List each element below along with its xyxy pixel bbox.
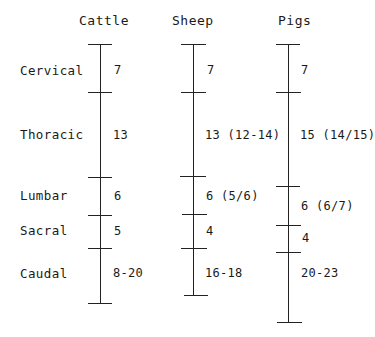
cattle-cervical-count: 7 bbox=[114, 63, 122, 77]
row-label-sacral: Sacral bbox=[20, 223, 68, 238]
pigs-tick-bottom bbox=[277, 322, 302, 323]
row-label-thoracic: Thoracic bbox=[20, 127, 83, 142]
pigs-sacral-count: 4 bbox=[302, 231, 310, 245]
column-title-pigs: Pigs bbox=[278, 13, 311, 28]
row-label-cervical: Cervical bbox=[20, 63, 83, 78]
cattle-tick-top bbox=[88, 44, 112, 45]
pigs-cervical-count: 7 bbox=[301, 63, 309, 77]
pigs-thoracic-count: 15 (14/15) bbox=[300, 128, 375, 142]
column-title-cattle: Cattle bbox=[79, 13, 129, 28]
row-label-caudal: Caudal bbox=[20, 266, 68, 281]
pigs-tick-top bbox=[276, 44, 300, 45]
sheep-cervical-count: 7 bbox=[207, 63, 215, 77]
pigs-tick-thoracic-lumbar bbox=[276, 186, 300, 187]
cattle-tick-cervical-thoracic bbox=[88, 92, 112, 93]
cattle-axis-line bbox=[100, 44, 101, 303]
cattle-caudal-count: 8-20 bbox=[113, 266, 143, 280]
cattle-lumbar-count: 6 bbox=[114, 189, 122, 203]
sheep-thoracic-count: 13 (12-14) bbox=[205, 128, 280, 142]
pigs-tick-cervical-thoracic bbox=[276, 92, 301, 93]
pigs-tick-sacral-caudal bbox=[276, 252, 301, 253]
cattle-thoracic-count: 13 bbox=[113, 128, 128, 142]
sheep-tick-thoracic-lumbar bbox=[180, 176, 206, 177]
sheep-tick-sacral-caudal bbox=[181, 248, 207, 249]
pigs-lumbar-count: 6 (6/7) bbox=[301, 199, 354, 213]
row-label-lumbar: Lumbar bbox=[20, 188, 68, 203]
column-title-sheep: Sheep bbox=[172, 13, 214, 28]
pigs-caudal-count: 20-23 bbox=[301, 266, 339, 280]
sheep-tick-top bbox=[181, 44, 206, 45]
sheep-tick-lumbar-sacral bbox=[182, 214, 207, 215]
cattle-tick-bottom bbox=[88, 303, 112, 304]
cattle-sacral-count: 5 bbox=[114, 224, 122, 238]
sheep-axis-line bbox=[193, 44, 194, 295]
sheep-lumbar-count: 6 (5/6) bbox=[206, 189, 259, 203]
pigs-tick-lumbar-sacral bbox=[276, 225, 301, 226]
cattle-tick-thoracic-lumbar bbox=[88, 177, 112, 178]
sheep-caudal-count: 16-18 bbox=[205, 266, 243, 280]
sheep-tick-cervical-thoracic bbox=[181, 92, 206, 93]
pigs-axis-line bbox=[288, 44, 289, 322]
cattle-tick-sacral-caudal bbox=[88, 248, 112, 249]
sheep-tick-bottom bbox=[184, 295, 208, 296]
sheep-sacral-count: 4 bbox=[206, 224, 214, 238]
cattle-tick-lumbar-sacral bbox=[88, 215, 112, 216]
